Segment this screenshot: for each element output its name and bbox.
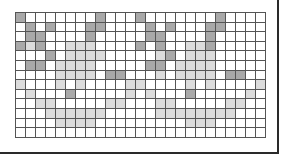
grid-cell[interactable] bbox=[106, 61, 116, 71]
grid-cell[interactable] bbox=[226, 13, 236, 23]
grid-cell[interactable] bbox=[146, 99, 156, 109]
grid-cell[interactable] bbox=[116, 51, 126, 61]
grid-cell[interactable] bbox=[156, 32, 166, 42]
grid-cell[interactable] bbox=[236, 109, 246, 119]
grid-cell[interactable] bbox=[206, 119, 216, 129]
grid-cell[interactable] bbox=[86, 80, 96, 90]
grid-cell[interactable] bbox=[116, 99, 126, 109]
grid-cell[interactable] bbox=[166, 23, 176, 33]
grid-cell[interactable] bbox=[256, 99, 266, 109]
grid-cell[interactable] bbox=[176, 119, 186, 129]
grid-cell[interactable] bbox=[36, 109, 46, 119]
grid-cell[interactable] bbox=[156, 109, 166, 119]
grid-cell[interactable] bbox=[86, 90, 96, 100]
grid-cell[interactable] bbox=[216, 90, 226, 100]
grid-cell[interactable] bbox=[76, 71, 86, 81]
grid-cell[interactable] bbox=[116, 128, 126, 138]
grid-cell[interactable] bbox=[186, 80, 196, 90]
grid-cell[interactable] bbox=[236, 90, 246, 100]
grid-cell[interactable] bbox=[206, 128, 216, 138]
grid-cell[interactable] bbox=[256, 42, 266, 52]
grid-cell[interactable] bbox=[26, 42, 36, 52]
grid-cell[interactable] bbox=[36, 99, 46, 109]
grid-cell[interactable] bbox=[96, 119, 106, 129]
grid-cell[interactable] bbox=[76, 119, 86, 129]
grid-cell[interactable] bbox=[196, 51, 206, 61]
grid-cell[interactable] bbox=[256, 61, 266, 71]
grid-cell[interactable] bbox=[256, 32, 266, 42]
grid-cell[interactable] bbox=[126, 119, 136, 129]
grid-cell[interactable] bbox=[246, 13, 256, 23]
grid-cell[interactable] bbox=[216, 51, 226, 61]
grid-cell[interactable] bbox=[146, 42, 156, 52]
grid-cell[interactable] bbox=[46, 23, 56, 33]
grid-cell[interactable] bbox=[146, 51, 156, 61]
grid-cell[interactable] bbox=[96, 80, 106, 90]
grid-cell[interactable] bbox=[146, 61, 156, 71]
grid-cell[interactable] bbox=[196, 80, 206, 90]
grid-cell[interactable] bbox=[146, 109, 156, 119]
grid-cell[interactable] bbox=[216, 13, 226, 23]
grid-cell[interactable] bbox=[46, 119, 56, 129]
grid-cell[interactable] bbox=[226, 42, 236, 52]
grid-cell[interactable] bbox=[166, 61, 176, 71]
grid-cell[interactable] bbox=[86, 13, 96, 23]
grid-cell[interactable] bbox=[206, 42, 216, 52]
grid-cell[interactable] bbox=[236, 13, 246, 23]
grid-cell[interactable] bbox=[196, 71, 206, 81]
grid-cell[interactable] bbox=[66, 13, 76, 23]
grid-cell[interactable] bbox=[106, 71, 116, 81]
grid-cell[interactable] bbox=[96, 109, 106, 119]
grid-cell[interactable] bbox=[126, 23, 136, 33]
grid-cell[interactable] bbox=[96, 128, 106, 138]
grid-cell[interactable] bbox=[196, 90, 206, 100]
grid-cell[interactable] bbox=[66, 119, 76, 129]
grid-cell[interactable] bbox=[226, 61, 236, 71]
grid-cell[interactable] bbox=[96, 99, 106, 109]
grid-cell[interactable] bbox=[76, 61, 86, 71]
grid-cell[interactable] bbox=[146, 71, 156, 81]
grid-cell[interactable] bbox=[46, 32, 56, 42]
grid-cell[interactable] bbox=[246, 109, 256, 119]
grid-cell[interactable] bbox=[176, 71, 186, 81]
grid-cell[interactable] bbox=[236, 23, 246, 33]
grid-cell[interactable] bbox=[246, 99, 256, 109]
grid-cell[interactable] bbox=[176, 90, 186, 100]
grid-cell[interactable] bbox=[216, 32, 226, 42]
grid-cell[interactable] bbox=[166, 42, 176, 52]
grid-cell[interactable] bbox=[126, 32, 136, 42]
grid-cell[interactable] bbox=[36, 61, 46, 71]
grid-cell[interactable] bbox=[36, 13, 46, 23]
grid-cell[interactable] bbox=[196, 42, 206, 52]
grid-cell[interactable] bbox=[96, 32, 106, 42]
grid-cell[interactable] bbox=[166, 71, 176, 81]
grid-cell[interactable] bbox=[36, 90, 46, 100]
grid-cell[interactable] bbox=[246, 51, 256, 61]
grid-cell[interactable] bbox=[116, 119, 126, 129]
grid-cell[interactable] bbox=[36, 23, 46, 33]
grid-cell[interactable] bbox=[156, 71, 166, 81]
grid-cell[interactable] bbox=[86, 99, 96, 109]
grid-cell[interactable] bbox=[66, 128, 76, 138]
grid-cell[interactable] bbox=[86, 128, 96, 138]
grid-cell[interactable] bbox=[216, 109, 226, 119]
grid-cell[interactable] bbox=[146, 90, 156, 100]
grid-cell[interactable] bbox=[216, 71, 226, 81]
grid-cell[interactable] bbox=[256, 23, 266, 33]
grid-cell[interactable] bbox=[116, 80, 126, 90]
grid-cell[interactable] bbox=[26, 109, 36, 119]
grid-cell[interactable] bbox=[46, 80, 56, 90]
grid-cell[interactable] bbox=[146, 128, 156, 138]
grid-cell[interactable] bbox=[96, 71, 106, 81]
grid-cell[interactable] bbox=[66, 51, 76, 61]
grid-cell[interactable] bbox=[186, 23, 196, 33]
grid-cell[interactable] bbox=[56, 99, 66, 109]
grid-cell[interactable] bbox=[156, 128, 166, 138]
grid-cell[interactable] bbox=[106, 128, 116, 138]
grid-cell[interactable] bbox=[206, 99, 216, 109]
grid-cell[interactable] bbox=[236, 61, 246, 71]
grid-cell[interactable] bbox=[146, 119, 156, 129]
grid-cell[interactable] bbox=[76, 109, 86, 119]
grid-cell[interactable] bbox=[66, 42, 76, 52]
grid-cell[interactable] bbox=[226, 90, 236, 100]
